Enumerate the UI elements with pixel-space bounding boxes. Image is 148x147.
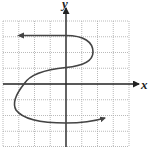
coordinate-graph: x y [0,0,148,147]
x-axis-label: x [140,77,148,92]
s-curve [14,36,105,124]
y-axis-label: y [60,0,68,11]
start-arrow-icon [17,33,24,39]
